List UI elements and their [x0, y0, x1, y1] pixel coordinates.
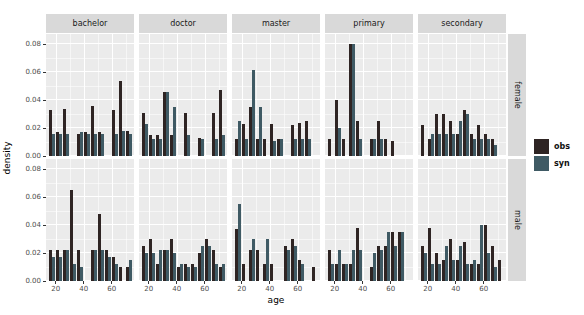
x-tick-mark — [334, 281, 335, 284]
bar-syn — [108, 257, 111, 281]
bar-syn — [201, 139, 204, 156]
y-tick-mark — [43, 197, 46, 198]
bar-obs — [498, 260, 501, 281]
bar-syn — [308, 139, 311, 156]
bar-syn — [480, 225, 483, 281]
bar-syn — [294, 246, 297, 281]
bar-syn — [352, 44, 355, 156]
bar-syn — [466, 114, 469, 156]
facet-strip-label: bachelor — [73, 20, 108, 28]
bar-syn — [301, 139, 304, 156]
gridline-minor — [126, 159, 127, 281]
bar-syn — [180, 264, 183, 281]
gridline-major — [139, 99, 227, 100]
y-tick-label: 0.00 — [9, 278, 41, 285]
gridline-minor — [46, 58, 134, 59]
bar-syn — [187, 135, 190, 156]
gridline-major — [325, 99, 413, 100]
y-tick-mark — [43, 253, 46, 254]
gridline-minor — [349, 159, 350, 281]
legend-swatch-obs — [534, 139, 549, 154]
gridline-minor — [70, 34, 71, 156]
gridline-minor — [418, 114, 506, 115]
x-tick-label: 40 — [451, 286, 460, 293]
bar-syn — [380, 139, 383, 156]
facet-strip-label: male — [513, 210, 521, 230]
x-tick-mark — [390, 281, 391, 284]
x-tick-mark — [362, 281, 363, 284]
bar-syn — [115, 134, 118, 156]
bar-syn — [129, 134, 132, 156]
facet-strip-master: master — [232, 14, 320, 33]
y-tick-label: 0.04 — [9, 97, 41, 104]
gridline-minor — [325, 183, 413, 184]
bar-syn — [52, 134, 55, 156]
bar-syn — [145, 253, 148, 281]
gridline-major — [84, 159, 85, 281]
bar-syn — [252, 239, 255, 281]
gridline-major — [139, 196, 227, 197]
x-tick-label: 60 — [107, 286, 116, 293]
bar-syn — [115, 264, 118, 281]
x-tick-label: 60 — [200, 286, 209, 293]
bar-obs — [421, 125, 424, 156]
panel-male-doctor — [139, 159, 227, 281]
y-tick-label: 0.06 — [9, 194, 41, 201]
bar-syn — [494, 267, 497, 281]
bar-syn — [73, 264, 76, 281]
gridline-major — [139, 71, 227, 72]
bar-syn — [152, 253, 155, 281]
facet-strip-secondary: secondary — [418, 14, 506, 33]
gridline-major — [232, 224, 320, 225]
legend-label: obs — [554, 139, 570, 154]
gridline-minor — [312, 159, 313, 281]
bar-syn — [159, 250, 162, 281]
bar-obs — [391, 141, 394, 156]
x-tick-label: 20 — [144, 286, 153, 293]
panel-female-master — [232, 34, 320, 156]
bar-syn — [52, 257, 55, 281]
x-axis-title: age — [268, 295, 285, 305]
bar-syn — [359, 139, 362, 156]
legend-label: syn — [554, 156, 570, 171]
x-tick-label: 20 — [51, 286, 60, 293]
gridline-major — [418, 99, 506, 100]
y-tick-label: 0.06 — [9, 69, 41, 76]
x-tick-label: 60 — [386, 286, 395, 293]
gridline-minor — [284, 34, 285, 156]
bar-syn — [87, 134, 90, 156]
bar-syn — [173, 107, 176, 156]
panel-male-master — [232, 159, 320, 281]
panel-female-primary — [325, 34, 413, 156]
bar-syn — [294, 139, 297, 156]
bar-syn — [280, 139, 283, 156]
gridline-major — [242, 159, 243, 281]
x-tick-mark — [483, 281, 484, 284]
gridline-major — [270, 159, 271, 281]
bar-syn — [259, 107, 262, 156]
panel-male-secondary — [418, 159, 506, 281]
bar-syn — [122, 131, 125, 156]
bar-syn — [266, 239, 269, 281]
bar-syn — [66, 134, 69, 156]
gridline-major — [46, 168, 134, 169]
bar-syn — [166, 250, 169, 281]
bar-syn — [245, 139, 248, 156]
gridline-minor — [405, 34, 406, 156]
gridline-major — [418, 168, 506, 169]
bar-syn — [394, 246, 397, 281]
panel-male-bachelor — [46, 159, 134, 281]
y-tick-mark — [43, 128, 46, 129]
bar-syn — [80, 132, 83, 156]
x-tick-mark — [55, 281, 56, 284]
gridline-major — [325, 43, 413, 44]
gridline-major — [325, 196, 413, 197]
bar-syn — [459, 246, 462, 281]
y-tick-mark — [43, 169, 46, 170]
x-tick-mark — [455, 281, 456, 284]
bar-syn — [373, 253, 376, 281]
gridline-minor — [232, 58, 320, 59]
gridline-minor — [325, 114, 413, 115]
bar-syn — [487, 253, 490, 281]
bar-syn — [159, 139, 162, 156]
